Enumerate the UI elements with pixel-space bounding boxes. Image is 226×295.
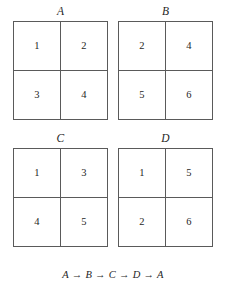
grid-c-cell-top-right: 3 — [61, 149, 108, 198]
grid-d-cell-bottom-left: 2 — [119, 198, 166, 247]
grid-d-cell-top-left: 1 — [119, 149, 166, 198]
grid-c-cell-top-left: 1 — [14, 149, 61, 198]
grid-b-cell-top-right: 4 — [166, 22, 213, 71]
grid-square-a: 1 2 3 4 — [13, 21, 108, 120]
grid-block-d: D 1 5 2 6 — [118, 133, 213, 247]
grid-a-cell-top-left: 1 — [14, 22, 61, 71]
grid-label-c: C — [13, 133, 108, 148]
grid-label-d: D — [118, 133, 213, 148]
figure-container: A 1 2 3 4 B 2 4 5 6 C 1 3 4 — [0, 0, 226, 295]
grid-d-cell-top-right: 5 — [166, 149, 213, 198]
grid-b-cell-bottom-right: 6 — [166, 71, 213, 120]
grid-label-b: B — [118, 6, 213, 21]
grid-c-cell-bottom-right: 5 — [61, 198, 108, 247]
grid-square-c: 1 3 4 5 — [13, 148, 108, 247]
grid-a-cell-top-right: 2 — [61, 22, 108, 71]
grid-b-cell-top-left: 2 — [119, 22, 166, 71]
grid-a-cell-bottom-right: 4 — [61, 71, 108, 120]
grid-d-cell-bottom-right: 6 — [166, 198, 213, 247]
grid-square-d: 1 5 2 6 — [118, 148, 213, 247]
grid-block-b: B 2 4 5 6 — [118, 6, 213, 120]
grid-label-a: A — [13, 6, 108, 21]
grid-row-top: A 1 2 3 4 B 2 4 5 6 — [0, 6, 226, 120]
figure-caption: A → B → C → D → A — [0, 269, 226, 282]
grid-block-a: A 1 2 3 4 — [13, 6, 108, 120]
grid-c-cell-bottom-left: 4 — [14, 198, 61, 247]
grid-block-c: C 1 3 4 5 — [13, 133, 108, 247]
grid-square-b: 2 4 5 6 — [118, 21, 213, 120]
grid-row-bottom: C 1 3 4 5 D 1 5 2 6 — [0, 133, 226, 247]
grid-b-cell-bottom-left: 5 — [119, 71, 166, 120]
grid-a-cell-bottom-left: 3 — [14, 71, 61, 120]
